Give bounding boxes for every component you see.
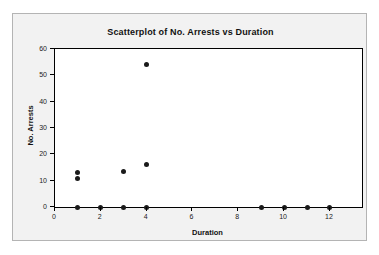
data-point bbox=[75, 205, 80, 210]
y-tick-label: 30 bbox=[13, 124, 47, 131]
y-tick-label: 10 bbox=[13, 176, 47, 183]
x-tick-label: 4 bbox=[144, 213, 148, 220]
y-tick-label: 60 bbox=[13, 45, 47, 52]
x-tick-mark bbox=[146, 207, 147, 211]
data-point bbox=[121, 169, 126, 174]
y-tick-label: 20 bbox=[13, 150, 47, 157]
x-tick-mark bbox=[283, 207, 284, 211]
x-tick-mark bbox=[54, 207, 55, 211]
graph-frame: Scatterplot of No. Arrests vs Duration N… bbox=[12, 13, 367, 241]
x-tick-label: 8 bbox=[235, 213, 239, 220]
x-tick-label: 0 bbox=[52, 213, 56, 220]
y-tick-mark bbox=[50, 48, 54, 49]
data-point bbox=[305, 205, 310, 210]
y-tick-mark bbox=[50, 101, 54, 102]
x-tick-label: 6 bbox=[190, 213, 194, 220]
x-tick-mark bbox=[237, 207, 238, 211]
x-tick-label: 2 bbox=[98, 213, 102, 220]
data-point bbox=[75, 170, 80, 175]
x-tick-mark bbox=[191, 207, 192, 211]
data-point bbox=[75, 176, 80, 181]
y-tick-label: 0 bbox=[13, 203, 47, 210]
data-point bbox=[121, 205, 126, 210]
y-tick-label: 40 bbox=[13, 97, 47, 104]
data-point bbox=[259, 205, 264, 210]
y-tick-label: 50 bbox=[13, 71, 47, 78]
data-point bbox=[144, 62, 149, 67]
plot-area bbox=[54, 48, 363, 208]
data-point bbox=[144, 162, 149, 167]
y-tick-mark bbox=[50, 180, 54, 181]
chart-title: Scatterplot of No. Arrests vs Duration bbox=[13, 27, 368, 37]
x-axis-title: Duration bbox=[54, 228, 361, 237]
x-tick-label: 12 bbox=[325, 213, 333, 220]
x-tick-mark bbox=[329, 207, 330, 211]
y-tick-mark bbox=[50, 74, 54, 75]
y-tick-mark bbox=[50, 127, 54, 128]
y-tick-mark bbox=[50, 153, 54, 154]
scatterplot-screenshot: Scatterplot of No. Arrests vs Duration N… bbox=[0, 0, 379, 255]
x-tick-label: 10 bbox=[279, 213, 287, 220]
x-tick-mark bbox=[100, 207, 101, 211]
